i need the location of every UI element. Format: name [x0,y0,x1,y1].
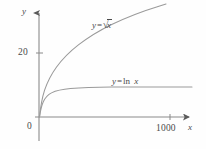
x-tick-label-1000: 1000 [156,124,176,134]
x-axis-label: x [188,123,192,132]
math-figure: y x 20 0 1000 y=√x y=ln x [0,0,206,149]
radicand: x [107,19,112,30]
radical-expression: √x [103,19,112,30]
ln-curve [40,87,193,117]
ln-curve-label: y=ln x [112,77,138,86]
origin-label: 0 [27,122,32,132]
sqrt-curve-label: y=√x [92,19,112,30]
y-tick-label-20: 20 [18,48,28,58]
sqrt-label-equals: = [96,20,103,30]
ln-argument: x [134,76,138,86]
y-axis-label: y [22,7,26,16]
